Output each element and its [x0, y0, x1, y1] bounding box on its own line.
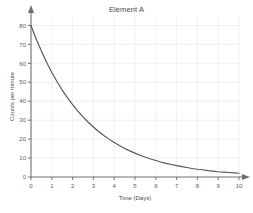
svg-text:3: 3	[92, 183, 96, 189]
svg-text:50: 50	[19, 79, 26, 85]
svg-text:80: 80	[19, 23, 26, 29]
svg-text:70: 70	[19, 42, 26, 48]
svg-text:2: 2	[71, 183, 75, 189]
x-axis-title: Time (Days)	[119, 195, 151, 201]
svg-text:10: 10	[236, 183, 243, 189]
svg-text:0: 0	[29, 183, 33, 189]
svg-text:30: 30	[19, 117, 26, 123]
chart-plot-area: 012345678910 01020304050607080 Time (Day…	[0, 0, 253, 213]
svg-text:6: 6	[154, 183, 158, 189]
svg-text:8: 8	[196, 183, 200, 189]
y-axis-title: Counts per minute	[9, 71, 15, 121]
svg-text:7: 7	[175, 183, 179, 189]
svg-text:60: 60	[19, 61, 26, 67]
y-tick-labels: 01020304050607080	[19, 23, 26, 181]
x-tick-labels: 012345678910	[29, 183, 243, 189]
svg-text:5: 5	[133, 183, 137, 189]
axes-group	[28, 5, 250, 180]
tick-marks-group	[28, 25, 239, 180]
svg-text:1: 1	[50, 183, 54, 189]
svg-text:20: 20	[19, 136, 26, 142]
svg-text:40: 40	[19, 98, 26, 104]
chart-figure: Element A 012345678910 01020304050607080…	[0, 0, 253, 213]
svg-text:4: 4	[113, 183, 117, 189]
axis-titles-group: Time (Days)Counts per minute	[9, 71, 151, 201]
svg-text:10: 10	[19, 155, 26, 161]
svg-text:9: 9	[217, 183, 221, 189]
svg-text:0: 0	[23, 174, 27, 180]
